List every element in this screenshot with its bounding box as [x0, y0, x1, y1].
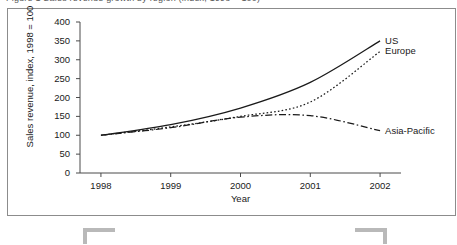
top-remnant-text: Figure 1 Sales revenue growth by region … [6, 0, 260, 3]
series-line-us [101, 41, 380, 135]
crop-mark-right [355, 228, 387, 245]
top-text-remnant: Figure 1 Sales revenue growth by region … [0, 0, 457, 6]
series-line-europe [101, 51, 380, 135]
plot-svg [8, 9, 457, 217]
line-chart: Sales revenue, index, 1998 = 100 0501001… [8, 9, 457, 217]
axis-lines [80, 22, 401, 173]
axis-ticks [76, 22, 380, 177]
series-paths [101, 41, 380, 135]
crop-mark-left [83, 228, 115, 245]
figure-frame: Sales revenue, index, 1998 = 100 0501001… [7, 8, 456, 216]
series-line-asia-pacific [101, 115, 380, 136]
